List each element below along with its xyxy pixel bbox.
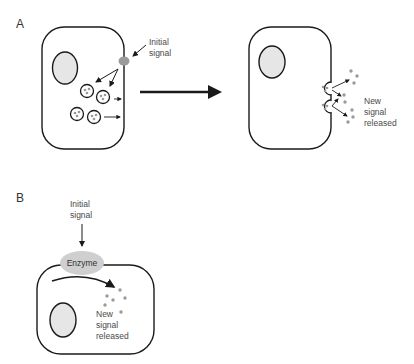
diagram-canvas: A Initial signal xyxy=(0,0,414,364)
receptor-signal-icon xyxy=(119,57,130,66)
release-arrow xyxy=(332,106,347,116)
panel-b: B Initial signal Enzyme New signal relea… xyxy=(16,191,154,354)
release-arrow xyxy=(332,90,341,96)
vesicle-icon xyxy=(88,111,101,124)
initial-signal-label-line2: signal xyxy=(70,210,92,220)
nucleus-icon xyxy=(53,52,78,84)
new-signal-label-line3: released xyxy=(364,118,397,128)
panel-a-right-cell: New signal released xyxy=(249,27,397,149)
nucleus-icon xyxy=(259,46,285,78)
new-signal-label-line2: signal xyxy=(364,107,386,117)
enzyme-icon: Enzyme xyxy=(60,251,104,275)
vesicle-icon xyxy=(71,108,84,121)
initial-signal-arrow xyxy=(133,45,146,56)
new-signal-label-line3: released xyxy=(96,331,129,341)
vesicle-icon xyxy=(81,85,94,98)
nucleus-icon xyxy=(50,303,76,337)
cell-membrane xyxy=(249,27,331,149)
enzyme-label: Enzyme xyxy=(67,258,98,268)
new-signal-label-line1: New xyxy=(96,309,114,319)
transition-arrow-icon xyxy=(140,85,222,99)
new-signal-label-line2: signal xyxy=(96,320,118,330)
panel-b-label: B xyxy=(16,191,24,205)
vesicle-icon xyxy=(97,91,110,104)
release-arrow xyxy=(332,80,349,88)
panel-a: A Initial signal xyxy=(16,17,397,149)
released-signal-dots xyxy=(342,69,358,123)
panel-a-label: A xyxy=(16,17,24,31)
initial-signal-label-line2: signal xyxy=(149,48,171,58)
panel-a-left-cell: Initial signal xyxy=(42,27,171,149)
initial-signal-label-line1: Initial xyxy=(70,199,90,209)
initial-signal-label-line1: Initial xyxy=(149,37,169,47)
new-signal-label-line1: New xyxy=(364,96,382,106)
